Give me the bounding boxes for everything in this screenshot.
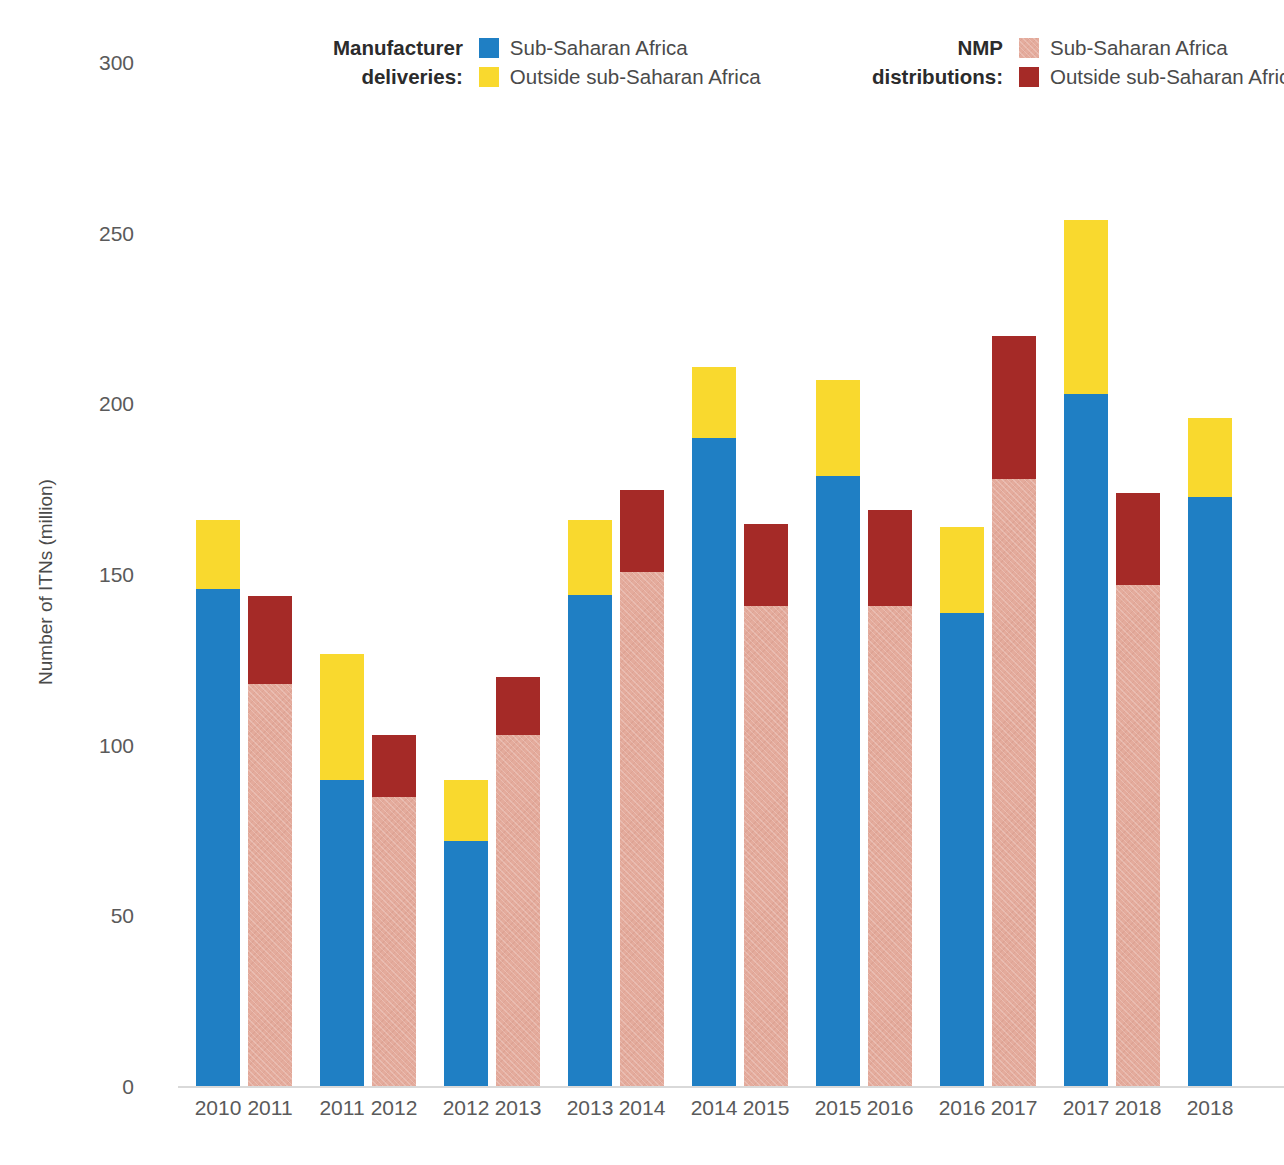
x-tick-deliveries-2011: 2011 [319, 1096, 364, 1120]
chart-canvas: Manufacturer deliveries: Sub-Saharan Afr… [0, 0, 1284, 1165]
x-tick-nmp-2018: 2018 [1115, 1096, 1162, 1120]
x-tick-deliveries-2012: 2012 [443, 1096, 490, 1120]
x-tick-deliveries-2018: 2018 [1187, 1096, 1234, 1120]
x-axis-tick-labels: 2010201120112012201220132013201420142015… [0, 0, 1284, 1165]
x-tick-nmp-2016: 2016 [867, 1096, 914, 1120]
x-tick-deliveries-2014: 2014 [691, 1096, 738, 1120]
x-tick-deliveries-2015: 2015 [815, 1096, 862, 1120]
x-tick-nmp-2014: 2014 [619, 1096, 666, 1120]
x-tick-nmp-2013: 2013 [495, 1096, 542, 1120]
x-tick-deliveries-2017: 2017 [1063, 1096, 1110, 1120]
x-tick-deliveries-2010: 2010 [195, 1096, 242, 1120]
x-tick-nmp-2015: 2015 [743, 1096, 790, 1120]
x-tick-deliveries-2013: 2013 [567, 1096, 614, 1120]
x-tick-nmp-2012: 2012 [371, 1096, 418, 1120]
x-tick-nmp-2011: 2011 [247, 1096, 292, 1120]
x-tick-deliveries-2016: 2016 [939, 1096, 986, 1120]
x-tick-nmp-2017: 2017 [991, 1096, 1038, 1120]
